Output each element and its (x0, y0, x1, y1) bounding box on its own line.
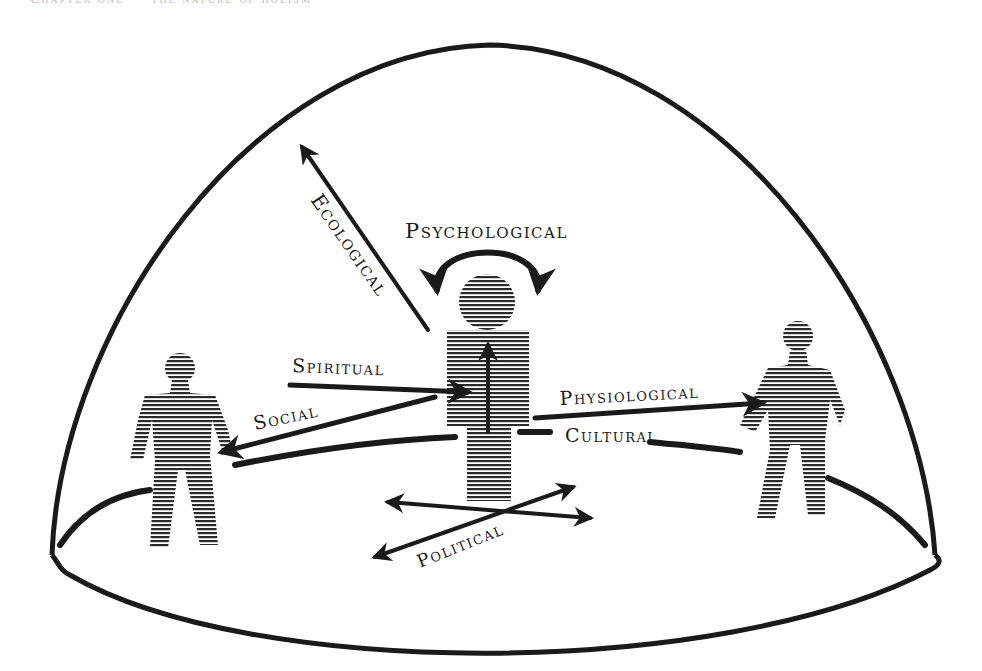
label-ecological: Ecological (306, 189, 394, 301)
label-psychological: Psychological (405, 219, 568, 243)
label-spiritual: Spiritual (292, 354, 385, 379)
right-person-figure (740, 321, 845, 518)
label-cultural: Cultural (565, 424, 658, 446)
label-physiological: Physiological (559, 380, 700, 409)
left-person-figure (130, 353, 232, 548)
holistic-dimensions-diagram: Chapter one — the nature of holism (0, 0, 982, 671)
spiritual-arrow (290, 385, 468, 392)
cropped-header-text: Chapter one — the nature of holism (30, 0, 312, 7)
